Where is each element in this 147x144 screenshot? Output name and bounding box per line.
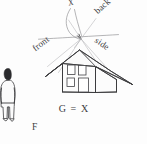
house-group <box>46 50 133 93</box>
vanishing-point-arrow-group <box>66 9 81 40</box>
person-head <box>4 69 11 81</box>
wall-base-line <box>63 92 117 93</box>
vanishing-point-arrow-tail <box>75 10 82 36</box>
person-label: F <box>32 123 37 133</box>
person-figure-group <box>1 69 15 122</box>
ray-back-upper-left <box>69 20 82 39</box>
perspective-drawing <box>0 0 147 144</box>
upper-left-window <box>68 65 76 75</box>
person-torso <box>1 80 15 119</box>
vanishing-point-label: X <box>67 0 74 7</box>
upper-right-window <box>79 66 87 76</box>
sketch-canvas: X back side front G = X F <box>0 0 147 144</box>
caption-label: G = X <box>59 104 90 114</box>
lower-left-window <box>67 78 75 87</box>
front-door <box>79 78 89 92</box>
